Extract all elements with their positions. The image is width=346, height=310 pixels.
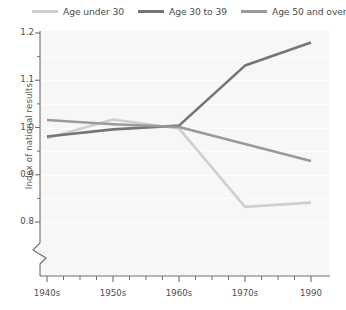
y-axis-break-mark: [33, 243, 46, 276]
